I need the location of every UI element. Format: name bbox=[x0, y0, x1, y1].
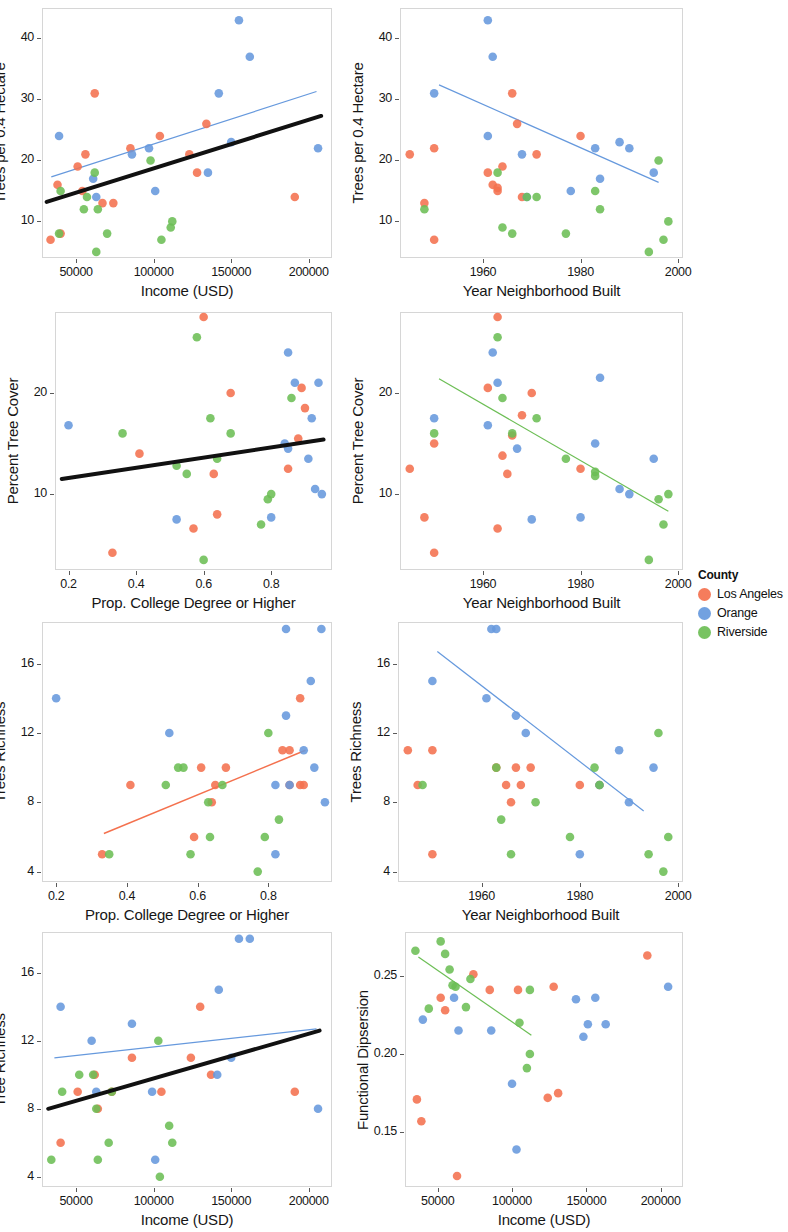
data-point bbox=[151, 1156, 160, 1165]
data-point bbox=[508, 89, 517, 98]
y-tick-label: 16 bbox=[377, 656, 390, 670]
trend-line-orange bbox=[51, 92, 316, 177]
data-point bbox=[56, 229, 65, 238]
data-point bbox=[448, 981, 457, 990]
data-point bbox=[484, 384, 493, 393]
data-point bbox=[420, 205, 429, 214]
data-point bbox=[532, 150, 541, 159]
y-tick-label: 40 bbox=[379, 30, 392, 44]
x-tick-mark bbox=[678, 571, 679, 575]
data-point bbox=[526, 763, 535, 772]
data-point bbox=[185, 150, 194, 159]
data-point bbox=[235, 935, 244, 944]
data-point bbox=[428, 746, 437, 755]
y-tick-label: 4 bbox=[27, 864, 34, 878]
x-tick-label: 0.4 bbox=[91, 577, 181, 591]
data-point bbox=[213, 510, 222, 519]
data-point bbox=[126, 781, 135, 790]
data-point bbox=[562, 454, 571, 463]
y-tick-label: 20 bbox=[379, 152, 392, 166]
x-tick-label: 100000 bbox=[109, 1194, 199, 1208]
x-tick-label: 0.6 bbox=[159, 577, 249, 591]
data-point bbox=[92, 248, 101, 257]
data-point bbox=[595, 781, 604, 790]
x-axis-label: Year Neighborhood Built bbox=[360, 282, 723, 299]
x-tick-label: 0.8 bbox=[226, 577, 316, 591]
data-point bbox=[296, 694, 305, 703]
trend-line-orange bbox=[437, 651, 643, 810]
x-tick-mark bbox=[483, 571, 484, 575]
data-point bbox=[81, 150, 90, 159]
data-point bbox=[549, 982, 558, 991]
data-point bbox=[531, 798, 540, 807]
y-axis-label: Tree Richness bbox=[0, 1013, 8, 1107]
data-point bbox=[532, 193, 541, 202]
data-point bbox=[405, 465, 414, 474]
data-point bbox=[591, 993, 600, 1002]
data-point bbox=[253, 867, 262, 876]
data-point bbox=[454, 1026, 463, 1035]
y-tick-label: 10 bbox=[21, 213, 34, 227]
data-point bbox=[226, 389, 235, 398]
data-point bbox=[492, 763, 501, 772]
y-tick-label: 4 bbox=[383, 864, 390, 878]
data-point bbox=[148, 1088, 157, 1097]
data-point bbox=[566, 833, 575, 842]
data-point bbox=[488, 348, 497, 357]
data-point bbox=[214, 986, 223, 995]
x-tick-label: 1960 bbox=[438, 265, 528, 279]
x-tick-mark bbox=[231, 1188, 232, 1192]
data-point bbox=[649, 168, 658, 177]
x-axis-label: Income (USD) bbox=[365, 1211, 723, 1228]
x-tick-label: 100000 bbox=[109, 265, 199, 279]
data-point bbox=[257, 520, 266, 529]
data-point bbox=[523, 193, 532, 202]
x-tick-label: 150000 bbox=[186, 1194, 276, 1208]
data-point bbox=[413, 781, 422, 790]
x-tick-mark bbox=[581, 259, 582, 263]
data-point bbox=[103, 229, 112, 238]
data-point bbox=[53, 181, 62, 190]
data-point bbox=[92, 1105, 101, 1114]
x-tick-label: 150000 bbox=[541, 1194, 631, 1208]
data-layer bbox=[0, 0, 788, 1232]
data-point bbox=[278, 746, 287, 755]
y-tick-label: 12 bbox=[21, 725, 34, 739]
y-tick-label: 0.20 bbox=[374, 1046, 397, 1060]
legend-color-swatch bbox=[698, 588, 711, 601]
data-point bbox=[318, 490, 327, 499]
data-point bbox=[562, 229, 571, 238]
y-tick-mark bbox=[395, 393, 399, 394]
data-point bbox=[193, 333, 202, 342]
data-point bbox=[405, 150, 414, 159]
y-axis-label: Percent Tree Cover bbox=[349, 378, 366, 504]
data-point bbox=[543, 1094, 552, 1103]
plot-area bbox=[55, 312, 332, 570]
data-point bbox=[235, 16, 244, 25]
x-axis-label: Year Neighborhood Built bbox=[360, 594, 723, 611]
chart-panel-p3: 10200.20.40.60.8Prop. College Degree or … bbox=[0, 0, 788, 1232]
data-point bbox=[52, 694, 61, 703]
data-point bbox=[211, 781, 220, 790]
y-tick-label: 30 bbox=[379, 91, 392, 105]
y-tick-mark bbox=[37, 1109, 41, 1110]
data-point bbox=[521, 729, 530, 738]
x-tick-mark bbox=[204, 571, 205, 575]
data-point bbox=[664, 217, 673, 226]
data-point bbox=[507, 850, 516, 859]
y-tick-label: 30 bbox=[21, 91, 34, 105]
data-point bbox=[508, 431, 517, 440]
data-point bbox=[187, 1054, 196, 1063]
plot-area bbox=[400, 8, 683, 258]
data-point bbox=[284, 444, 293, 453]
y-tick-mark bbox=[37, 733, 41, 734]
y-tick-mark bbox=[37, 1177, 41, 1178]
data-point bbox=[301, 404, 310, 413]
data-point bbox=[493, 313, 502, 322]
data-point bbox=[430, 235, 439, 244]
x-tick-label: 1980 bbox=[536, 577, 626, 591]
data-point bbox=[654, 156, 663, 165]
y-tick-mark bbox=[393, 802, 397, 803]
y-tick-label: 8 bbox=[383, 794, 390, 808]
data-point bbox=[643, 951, 652, 960]
